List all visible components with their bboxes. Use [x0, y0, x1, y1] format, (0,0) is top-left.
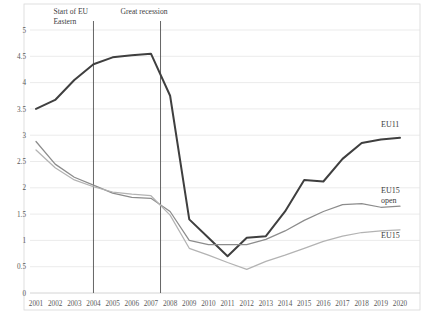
series-line-eu11: [36, 54, 400, 257]
x-tick-2006: 2006: [125, 300, 140, 308]
y-tick-3: 3: [22, 132, 26, 140]
x-axis-tick-labels: 2001200220032004200520062007200820092010…: [29, 300, 408, 308]
series-line-eu15: [36, 150, 400, 269]
y-tick-1: 1: [22, 237, 26, 245]
x-tick-2001: 2001: [29, 300, 44, 308]
x-tick-2020: 2020: [393, 300, 408, 308]
x-tick-2004: 2004: [86, 300, 101, 308]
y-tick-0: 0: [22, 290, 26, 298]
x-tick-2002: 2002: [48, 300, 63, 308]
x-tick-2011: 2011: [221, 300, 236, 308]
annotation-vertical-lines: [93, 21, 160, 293]
series-label-eu15-open-line2: open: [381, 196, 397, 205]
x-tick-2018: 2018: [354, 300, 369, 308]
y-tick-4.5: 4.5: [17, 53, 26, 61]
y-tick-5: 5: [22, 27, 26, 35]
series-label-eu15-open: EU15: [381, 186, 400, 195]
chart-border: [24, 4, 420, 310]
x-tick-2015: 2015: [297, 300, 312, 308]
y-tick-4: 4: [22, 79, 26, 87]
x-tick-2007: 2007: [144, 300, 159, 308]
chart-container: 00.511.522.533.544.55 200120022003200420…: [0, 0, 424, 321]
x-tick-2014: 2014: [278, 300, 293, 308]
x-tick-2010: 2010: [201, 300, 216, 308]
y-tick-2.5: 2.5: [17, 158, 26, 166]
annotation-eu-eastern-line2: Eastern: [53, 17, 76, 26]
y-axis-tick-labels: 00.511.522.533.544.55: [17, 27, 26, 298]
x-tick-2008: 2008: [163, 300, 178, 308]
x-tick-2012: 2012: [240, 300, 255, 308]
x-tick-2016: 2016: [316, 300, 331, 308]
y-tick-3.5: 3.5: [17, 106, 26, 114]
x-tick-2017: 2017: [335, 300, 350, 308]
y-tick-0.5: 0.5: [17, 263, 26, 271]
annotation-eu-eastern-line1: Start of EU: [53, 7, 88, 16]
y-tick-1.5: 1.5: [17, 211, 26, 219]
x-tick-2013: 2013: [259, 300, 274, 308]
x-tick-2009: 2009: [182, 300, 197, 308]
annotation-great-recession-line1: Great recession: [121, 7, 168, 16]
x-tick-2003: 2003: [67, 300, 82, 308]
series-label-eu11: EU11: [381, 120, 399, 129]
x-tick-2019: 2019: [374, 300, 389, 308]
annotation-labels: Start of EUEasternGreat recession: [53, 7, 167, 26]
y-tick-2: 2: [22, 184, 26, 192]
x-tick-2005: 2005: [105, 300, 120, 308]
series-label-eu15: EU15: [381, 231, 400, 240]
line-chart: 00.511.522.533.544.55 200120022003200420…: [0, 0, 424, 321]
